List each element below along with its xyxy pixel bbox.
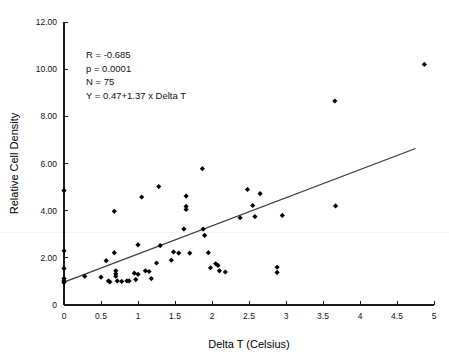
annotation-line: p = 0.0001: [86, 63, 131, 74]
regression-fit-line: [64, 148, 416, 282]
annotation-line: Y = 0.47+1.37 x Delta T: [86, 90, 186, 101]
y-tick-label: 10.00: [36, 64, 58, 74]
data-point: [223, 269, 228, 274]
x-tick-label: 3: [284, 311, 289, 321]
y-axis-title: Relative Cell Density: [8, 112, 20, 214]
regression-line: [64, 148, 416, 282]
data-point: [158, 243, 163, 248]
data-point: [171, 249, 176, 254]
y-axis-ticks: 02.004.006.008.0010.0012.00: [36, 17, 68, 310]
data-point: [61, 248, 66, 253]
data-point: [154, 260, 159, 265]
data-point: [133, 277, 138, 282]
data-point: [280, 213, 285, 218]
data-point: [169, 258, 174, 263]
data-point: [147, 269, 152, 274]
data-point: [187, 251, 192, 256]
data-point: [61, 266, 66, 271]
annotation-line: N = 75: [86, 76, 114, 87]
data-point: [258, 191, 263, 196]
data-point: [201, 226, 206, 231]
x-tick-label: 4.5: [391, 311, 403, 321]
y-tick-label: 4.00: [40, 206, 57, 216]
data-point: [149, 276, 154, 281]
data-point: [176, 251, 181, 256]
data-point: [206, 250, 211, 255]
annotation-line: R = -0.685: [86, 49, 131, 60]
data-point: [139, 194, 144, 199]
x-tick-label: 0.5: [95, 311, 107, 321]
data-point: [250, 203, 255, 208]
x-tick-label: 1: [136, 311, 141, 321]
data-point: [184, 193, 189, 198]
y-tick-label: 0: [52, 300, 57, 310]
data-point: [98, 275, 103, 280]
data-point: [275, 265, 280, 270]
data-point: [156, 184, 161, 189]
x-axis-title: Delta T (Celsius): [208, 338, 290, 350]
data-point: [112, 250, 117, 255]
stats-annotation-block: R = -0.685p = 0.0001N = 75Y = 0.47+1.37 …: [86, 49, 186, 101]
data-point: [333, 203, 338, 208]
data-point: [61, 188, 66, 193]
data-point: [135, 242, 140, 247]
y-tick-label: 8.00: [40, 111, 57, 121]
x-axis-ticks: 00.511.522.533.544.55: [62, 301, 437, 321]
data-point: [245, 187, 250, 192]
data-point: [208, 265, 213, 270]
data-point: [104, 258, 109, 263]
data-point: [275, 270, 280, 275]
data-point: [332, 98, 337, 103]
data-point: [181, 226, 186, 231]
x-tick-label: 4: [358, 311, 363, 321]
data-point: [200, 166, 205, 171]
y-tick-label: 6.00: [40, 159, 57, 169]
y-tick-label: 2.00: [40, 253, 57, 263]
x-tick-label: 2.5: [243, 311, 255, 321]
x-tick-label: 5: [432, 311, 437, 321]
x-tick-label: 2: [210, 311, 215, 321]
data-point: [112, 209, 117, 214]
data-point: [202, 233, 207, 238]
x-tick-label: 0: [62, 311, 67, 321]
data-point: [252, 214, 257, 219]
x-tick-label: 1.5: [169, 311, 181, 321]
y-tick-label: 12.00: [36, 17, 58, 27]
data-point: [119, 279, 124, 284]
data-point: [217, 268, 222, 273]
data-point: [184, 207, 189, 212]
data-point: [115, 278, 120, 283]
data-point: [422, 62, 427, 67]
scatter-plot-figure: 00.511.522.533.544.55 02.004.006.008.001…: [0, 0, 449, 356]
x-tick-label: 3.5: [317, 311, 329, 321]
plot-canvas: 00.511.522.533.544.55 02.004.006.008.001…: [0, 0, 449, 356]
